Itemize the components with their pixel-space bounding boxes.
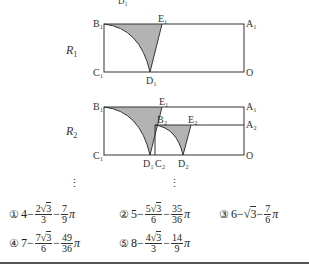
label-e1: E₁ <box>158 13 168 24</box>
r2-shaded-region-2 <box>155 125 191 155</box>
label-o: O <box>246 67 253 78</box>
r2-shaded-region-1 <box>104 107 162 155</box>
choice-mark: ③ <box>219 208 229 221</box>
label-a2: A₂ <box>246 119 257 130</box>
geometry-figure: D₁ R1 B₁ E₁ A₁ C₁ D₁ O R2 B₁ E₁ A₁ B₂ E₂… <box>0 0 309 175</box>
pi-symbol: π <box>69 207 75 222</box>
fraction-pi: 14 9 <box>171 233 183 254</box>
bottom-divider <box>0 262 309 264</box>
minus-sign: − <box>137 236 144 251</box>
choice-mark: ① <box>9 208 19 221</box>
label-c2: C₂ <box>155 158 165 169</box>
figure-r2: R2 B₁ E₁ A₁ B₂ E₂ A₂ C₁ D₁ C₂ D₂ O <box>65 96 257 169</box>
choice-mark: ④ <box>9 237 19 250</box>
vdots-left: ⋮ <box>69 181 80 185</box>
minus-sign: − <box>163 207 170 222</box>
label-b1: B₁ <box>93 18 103 29</box>
label-e1: E₁ <box>159 96 169 107</box>
choice-4[interactable]: ④ 7 − 7√3 6 − 49 36 π <box>9 233 80 254</box>
choice-5[interactable]: ⑤ 8 − 4√3 3 − 14 9 π <box>119 233 190 254</box>
label-c1: C₁ <box>93 67 103 78</box>
minus-sign: − <box>53 236 60 251</box>
label-e2: E₂ <box>188 114 198 125</box>
fraction-root: 5√3 6 <box>145 204 163 225</box>
top-cut-label: D₁ <box>118 0 128 6</box>
label-a1: A₁ <box>246 101 257 112</box>
choice-1[interactable]: ① 4 − 2√3 3 − 7 9 π <box>9 204 75 225</box>
vdots-right: ⋮ <box>169 181 180 185</box>
r2-label: R2 <box>65 124 77 140</box>
r1-label: R1 <box>65 43 77 59</box>
minus-sign: − <box>256 207 263 222</box>
choice-mark: ② <box>119 208 129 221</box>
r1-shaded-region <box>104 24 162 72</box>
fraction-root: 2√3 3 <box>35 204 53 225</box>
pi-symbol: π <box>184 236 190 251</box>
label-b2: B₂ <box>157 114 167 125</box>
choice-2[interactable]: ② 5 − 5√3 6 − 35 36 π <box>119 204 190 225</box>
minus-sign: − <box>237 207 244 222</box>
pi-symbol: π <box>272 207 278 222</box>
fraction-pi: 49 36 <box>61 233 73 254</box>
fraction-pi: 7 6 <box>264 204 271 225</box>
minus-sign: − <box>53 207 60 222</box>
label-o: O <box>246 150 253 161</box>
minus-sign: − <box>163 236 170 251</box>
pi-symbol: π <box>74 236 80 251</box>
choice-3[interactable]: ③ 6 − √3 − 7 6 π <box>219 204 278 225</box>
fraction-root: 7√3 6 <box>35 233 53 254</box>
fraction-pi: 35 36 <box>171 204 183 225</box>
minus-sign: − <box>27 236 34 251</box>
label-c1: C₁ <box>93 150 103 161</box>
minus-sign: − <box>137 207 144 222</box>
sqrt-term: √3 <box>244 207 257 222</box>
choice-mark: ⑤ <box>119 237 129 250</box>
fraction-root: 4√3 3 <box>145 233 163 254</box>
pi-symbol: π <box>184 207 190 222</box>
label-a1: A₁ <box>246 18 257 29</box>
minus-sign: − <box>27 207 34 222</box>
figure-r1: R1 B₁ E₁ A₁ C₁ D₁ O <box>65 13 257 86</box>
label-d1: D₁ <box>146 75 157 86</box>
label-b1: B₁ <box>93 101 103 112</box>
label-d2: D₂ <box>178 158 189 169</box>
fraction-pi: 7 9 <box>61 204 68 225</box>
label-d1: D₁ <box>143 158 154 169</box>
